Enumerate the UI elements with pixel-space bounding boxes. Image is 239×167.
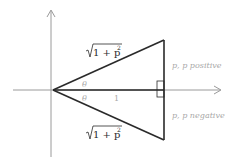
label-hypotenuse-top: 1 + p 2 (86, 44, 122, 58)
p-positive-label: p, p positive (172, 61, 222, 70)
label-hypotenuse-bottom: 1 + p 2 (86, 126, 122, 140)
right-angle-marker (157, 81, 164, 97)
hyp-bottom-superscript: 2 (117, 126, 121, 133)
hyp-top-superscript: 2 (117, 44, 121, 51)
p-negative-label: p, p negative (172, 111, 225, 120)
triangle-diagram: 1 + p 2 1 + p 2 θ θ 1 p, p positive p, p… (0, 0, 239, 167)
base-length-label: 1 (114, 94, 119, 103)
theta-bottom-label: θ (82, 94, 87, 103)
theta-top-label: θ (82, 80, 87, 89)
